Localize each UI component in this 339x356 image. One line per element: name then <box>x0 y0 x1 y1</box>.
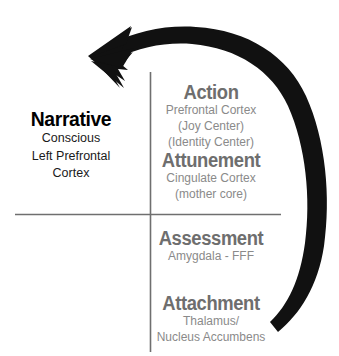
quadrant-assessment-subtitle-line-1: Amygdala - FFF <box>145 249 277 264</box>
quadrant-action-subtitle-line-3: (Identity Center) <box>148 135 274 150</box>
quadrant-action: Action Prefrontal Cortex (Joy Center) (I… <box>148 82 274 149</box>
quadrant-attachment: Attachment Thalamus/ Nucleus Accumbens <box>143 293 279 345</box>
quadrant-narrative-subtitle-line-2: Left Prefrontal <box>6 149 136 164</box>
quadrant-assessment: Assessment Amygdala - FFF <box>145 228 277 264</box>
quadrant-narrative-subtitle-line-1: Conscious <box>6 131 136 146</box>
diagram-canvas: Narrative Conscious Left Prefrontal Cort… <box>0 0 339 356</box>
quadrant-attachment-subtitle-line-2: Nucleus Accumbens <box>143 330 279 345</box>
quadrant-attachment-heading: Attachment <box>148 293 273 313</box>
quadrant-attachment-subtitle-line-1: Thalamus/ <box>143 314 279 329</box>
quadrant-action-subtitle-line-1: Prefrontal Cortex <box>148 103 274 118</box>
quadrant-action-heading: Action <box>153 82 269 102</box>
quadrant-attunement: Attunement Cingulate Cortex (mother core… <box>143 150 279 202</box>
quadrant-narrative-heading: Narrative <box>11 108 131 129</box>
quadrant-attunement-heading: Attunement <box>148 150 273 170</box>
quadrant-attunement-subtitle-line-2: (mother core) <box>143 187 279 202</box>
quadrant-narrative-subtitle-line-3: Cortex <box>6 166 136 181</box>
quadrant-action-subtitle-line-2: (Joy Center) <box>148 119 274 134</box>
quadrant-narrative: Narrative Conscious Left Prefrontal Cort… <box>6 108 136 181</box>
quadrant-assessment-heading: Assessment <box>150 228 271 248</box>
quadrant-attunement-subtitle-line-1: Cingulate Cortex <box>143 171 279 186</box>
